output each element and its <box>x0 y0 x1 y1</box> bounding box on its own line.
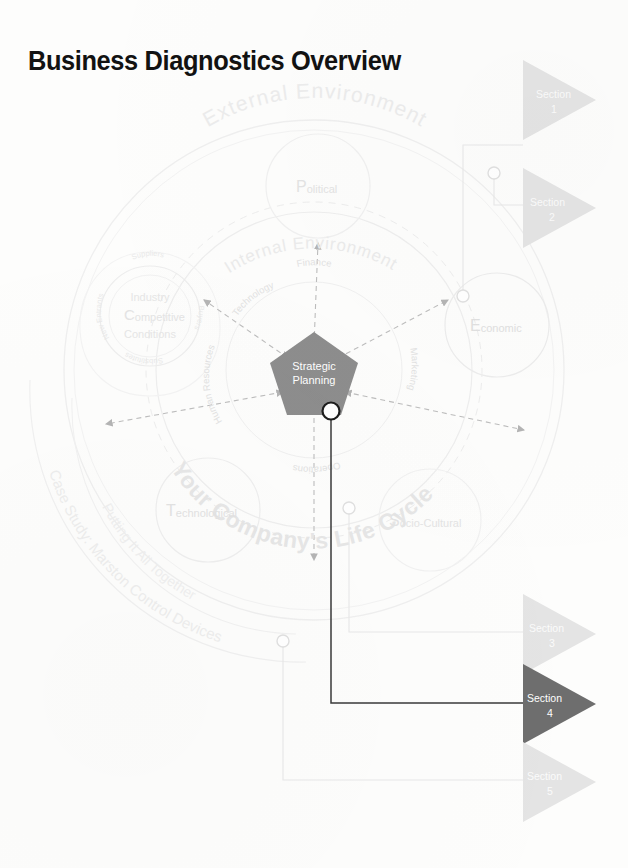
core-label-line1: Strategic <box>292 360 336 372</box>
arrow-core-industry <box>106 392 283 424</box>
force-label-buyers: Buyers <box>192 306 206 332</box>
function-label-human-resources: Human Resources <box>200 343 224 427</box>
section-marker-5[interactable]: Section 5 <box>523 742 596 822</box>
section-label-1: Section <box>536 88 571 100</box>
industry-label-line1: Industry <box>130 291 170 303</box>
section-marker-2[interactable]: Section 2 <box>523 168 596 248</box>
section-marker-3[interactable]: Section 3 <box>523 594 596 674</box>
section-label-3: Section <box>529 622 564 634</box>
connector-node-2 <box>488 167 500 179</box>
pest-label-political: Political <box>296 178 337 195</box>
section-markers: Section 1 Section 2 Section 3 Section 4 <box>523 60 596 822</box>
section-number-3: 3 <box>549 637 555 649</box>
connector-section-4-active <box>323 403 524 704</box>
arrow-core-socio <box>345 392 524 430</box>
business-diagnostics-diagram: Strategic Planning External Environment … <box>0 0 628 868</box>
connector-line-section-4 <box>331 416 523 703</box>
connector-node-4 <box>323 403 340 420</box>
connector-node-3 <box>343 502 355 514</box>
section-number-2: 2 <box>549 211 555 223</box>
industry-label-line2: Competitive <box>124 306 185 323</box>
section-number-5: 5 <box>547 785 553 797</box>
section-label-4: Section <box>527 692 562 704</box>
section-triangle-3[interactable] <box>523 594 596 674</box>
section-triangle-5[interactable] <box>523 742 596 822</box>
section-triangle-4[interactable] <box>523 664 596 744</box>
external-environment-label: External Environment <box>199 79 432 131</box>
diagram-canvas: Business Diagnostics Overview <box>0 0 628 868</box>
section-triangle-2[interactable] <box>523 168 596 248</box>
section-label-2: Section <box>530 196 565 208</box>
section-marker-4[interactable]: Section 4 <box>523 664 596 744</box>
connector-node-1 <box>457 290 469 302</box>
force-label-suppliers: Suppliers <box>130 249 165 262</box>
function-label-operations: Operations <box>291 460 342 476</box>
section-triangle-1[interactable] <box>523 60 596 140</box>
function-label-marketing: Marketing <box>406 347 421 392</box>
arrow-core-economic <box>338 300 448 358</box>
force-label-substitutes: Substitutes <box>123 350 164 366</box>
function-label-finance: Finance <box>296 256 333 269</box>
core-label-line2: Planning <box>293 374 336 386</box>
connector-section-5 <box>283 641 523 780</box>
section-number-4: 4 <box>547 707 553 719</box>
section-marker-1[interactable]: Section 1 <box>523 60 596 140</box>
ghost-diagram: Strategic Planning External Environment … <box>30 79 564 662</box>
section-number-1: 1 <box>551 103 557 115</box>
function-label-technology: Technology <box>230 279 276 318</box>
pest-label-economic: Economic <box>470 317 522 334</box>
section-label-5: Section <box>527 770 562 782</box>
internal-environment-label: Internal Environment <box>221 233 401 276</box>
connector-node-5 <box>277 635 289 647</box>
industry-label-line3: Conditions <box>124 328 176 340</box>
